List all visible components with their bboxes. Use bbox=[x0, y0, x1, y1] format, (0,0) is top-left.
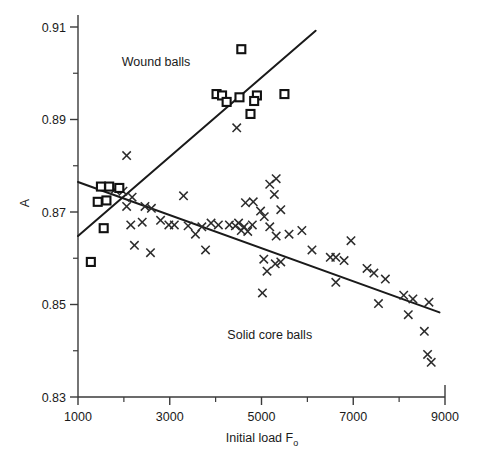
data-point-cross bbox=[308, 246, 316, 254]
y-tick-label: 0.91 bbox=[42, 21, 66, 35]
data-point-cross bbox=[258, 289, 266, 297]
data-point-cross bbox=[263, 267, 271, 275]
data-point-square bbox=[250, 97, 258, 105]
data-point-cross bbox=[128, 193, 136, 201]
data-point-cross bbox=[234, 219, 242, 227]
data-point-cross bbox=[184, 222, 192, 230]
data-point-cross bbox=[427, 358, 435, 366]
data-point-square bbox=[280, 90, 288, 98]
data-point-cross bbox=[122, 202, 130, 210]
data-point-cross bbox=[423, 350, 431, 358]
annotation-solid-core-balls: Solid core balls bbox=[227, 328, 312, 342]
data-point-cross bbox=[272, 232, 280, 240]
data-point-cross bbox=[266, 223, 274, 231]
data-point-square bbox=[87, 258, 95, 266]
y-tick-label: 0.87 bbox=[42, 206, 66, 220]
data-point-cross bbox=[277, 205, 285, 213]
y-tick-label: 0.83 bbox=[42, 391, 66, 405]
y-tick-label: 0.89 bbox=[42, 113, 66, 127]
data-point-cross bbox=[249, 198, 257, 206]
y-tick-label: 0.85 bbox=[42, 298, 66, 312]
data-point-cross bbox=[207, 219, 215, 227]
axis-ticks bbox=[70, 15, 445, 405]
data-point-cross bbox=[381, 275, 389, 283]
x-axis-title-text: Initial load Fo bbox=[226, 431, 298, 448]
data-point-cross bbox=[332, 253, 340, 261]
data-point-cross bbox=[270, 190, 278, 198]
data-point-cross bbox=[170, 221, 178, 229]
data-point-cross bbox=[191, 230, 199, 238]
data-point-cross bbox=[201, 246, 209, 254]
data-point-cross bbox=[130, 241, 138, 249]
x-tick-label: 5000 bbox=[248, 410, 276, 424]
wound-balls-trend bbox=[78, 31, 316, 236]
data-point-cross bbox=[285, 230, 293, 238]
data-point-cross bbox=[233, 124, 241, 132]
x-tick-label: 3000 bbox=[156, 410, 184, 424]
data-point-cross bbox=[260, 255, 268, 263]
data-point-cross bbox=[241, 199, 249, 207]
data-point-cross bbox=[425, 298, 433, 306]
data-point-square bbox=[223, 98, 231, 106]
x-tick-label: 1000 bbox=[64, 410, 92, 424]
data-point-cross bbox=[332, 278, 340, 286]
data-point-cross bbox=[298, 226, 306, 234]
data-point-cross bbox=[179, 192, 187, 200]
y-axis-title: A bbox=[18, 198, 32, 207]
annotation-wound-balls: Wound balls bbox=[122, 55, 191, 69]
data-point-cross bbox=[400, 291, 408, 299]
data-point-cross bbox=[374, 299, 382, 307]
x-tick-label: 9000 bbox=[431, 410, 459, 424]
trend-lines bbox=[78, 31, 439, 313]
x-axis-title: Initial load Fo bbox=[226, 431, 298, 448]
data-point-cross bbox=[156, 216, 164, 224]
data-point-square bbox=[102, 196, 110, 204]
data-point-cross bbox=[347, 236, 355, 244]
data-point-cross bbox=[404, 310, 412, 318]
data-point-cross bbox=[122, 151, 130, 159]
data-point-cross bbox=[363, 264, 371, 272]
data-point-square bbox=[115, 184, 123, 192]
data-point-cross bbox=[340, 256, 348, 264]
data-point-square bbox=[105, 183, 113, 191]
scatter-plot-canvas: 0.830.850.870.890.9110003000500070009000… bbox=[0, 0, 481, 472]
data-point-square bbox=[246, 110, 254, 118]
chart-figure: 0.830.850.870.890.9110003000500070009000… bbox=[0, 0, 481, 472]
data-point-square bbox=[97, 183, 105, 191]
data-point-cross bbox=[214, 221, 222, 229]
data-point-cross bbox=[127, 221, 135, 229]
data-point-cross bbox=[138, 218, 146, 226]
data-point-cross bbox=[146, 249, 154, 257]
data-point-cross bbox=[272, 175, 280, 183]
data-point-cross bbox=[370, 269, 378, 277]
data-point-square bbox=[94, 198, 102, 206]
x-tick-label: 7000 bbox=[339, 410, 367, 424]
data-point-square bbox=[237, 45, 245, 53]
data-point-square bbox=[100, 224, 108, 232]
data-point-square bbox=[235, 93, 243, 101]
data-point-cross bbox=[420, 327, 428, 335]
series-wound-balls-points bbox=[87, 45, 289, 266]
